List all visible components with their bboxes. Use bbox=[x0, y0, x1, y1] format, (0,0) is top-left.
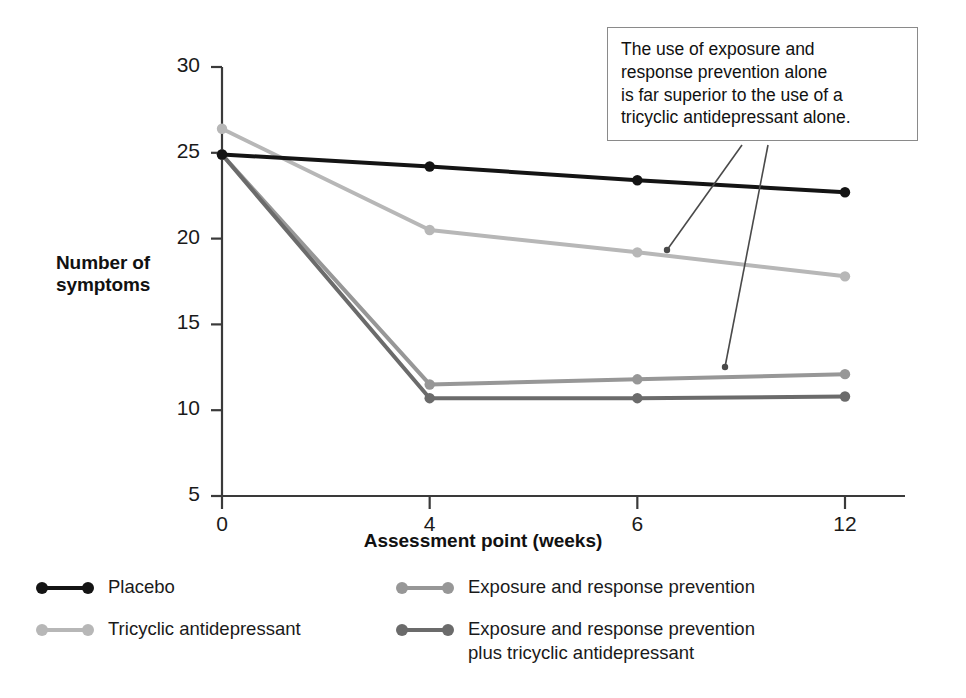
series-marker bbox=[840, 369, 850, 379]
legend-label-tricyclic: Tricyclic antidepressant bbox=[108, 617, 301, 641]
x-tick-label: 12 bbox=[815, 512, 875, 536]
legend-label-erp-plus-tricyclic: Exposure and response prevention plus tr… bbox=[468, 617, 755, 664]
series-marker bbox=[424, 393, 434, 403]
series-marker bbox=[217, 149, 227, 159]
y-tick-label: 10 bbox=[160, 396, 200, 420]
annotation-line-2: response prevention alone bbox=[621, 61, 906, 84]
legend-item-erp: Exposure and response prevention bbox=[396, 575, 755, 600]
series-line bbox=[222, 129, 845, 277]
chart-figure: Number of symptoms Assessment point (wee… bbox=[0, 0, 966, 698]
series-marker bbox=[424, 225, 434, 235]
series-marker bbox=[424, 161, 434, 171]
y-axis-title: Number of symptoms bbox=[56, 252, 206, 297]
legend-swatch-icon-erp bbox=[396, 576, 454, 600]
y-tick-label: 25 bbox=[160, 139, 200, 163]
legend-swatch-icon-erp-plus-tricyclic bbox=[396, 618, 454, 642]
legend-swatch-icon-placebo bbox=[36, 576, 94, 600]
y-tick-label: 30 bbox=[160, 53, 200, 77]
x-tick-label: 4 bbox=[400, 512, 460, 536]
annotation-callout: The use of exposure and response prevent… bbox=[607, 27, 918, 141]
series-line bbox=[222, 155, 845, 399]
annotation-line-3: is far superior to the use of a bbox=[621, 84, 906, 107]
y-tick-label: 15 bbox=[160, 310, 200, 334]
series-line bbox=[222, 155, 845, 385]
chart-legend: Placebo Tricyclic antidepressant Exposur… bbox=[0, 575, 966, 685]
y-tick-label: 20 bbox=[160, 225, 200, 249]
annotation-leader-line bbox=[667, 145, 742, 250]
series-marker bbox=[632, 374, 642, 384]
annotation-leader-dot bbox=[664, 247, 670, 253]
legend-item-tricyclic: Tricyclic antidepressant bbox=[36, 617, 301, 642]
legend-item-placebo: Placebo bbox=[36, 575, 175, 600]
x-tick-label: 0 bbox=[192, 512, 252, 536]
annotation-leader-dot bbox=[722, 364, 728, 370]
series-marker bbox=[632, 393, 642, 403]
legend-label-placebo: Placebo bbox=[108, 575, 175, 599]
series-marker bbox=[840, 391, 850, 401]
legend-label-erp: Exposure and response prevention bbox=[468, 575, 755, 599]
series-marker bbox=[424, 379, 434, 389]
annotation-line-1: The use of exposure and bbox=[621, 38, 906, 61]
annotation-line-4: tricyclic antidepressant alone. bbox=[621, 106, 906, 129]
y-axis-title-line1: Number of bbox=[56, 252, 206, 274]
series-marker bbox=[632, 247, 642, 257]
legend-item-erp-plus-tricyclic: Exposure and response prevention plus tr… bbox=[396, 617, 755, 664]
legend-swatch-icon-tricyclic bbox=[36, 618, 94, 642]
series-marker bbox=[840, 271, 850, 281]
x-tick-label: 6 bbox=[607, 512, 667, 536]
series-marker bbox=[217, 124, 227, 134]
annotation-leader-line bbox=[725, 145, 768, 367]
series-marker bbox=[840, 187, 850, 197]
y-tick-label: 5 bbox=[160, 482, 200, 506]
y-axis-title-line2: symptoms bbox=[56, 274, 206, 296]
series-marker bbox=[632, 175, 642, 185]
